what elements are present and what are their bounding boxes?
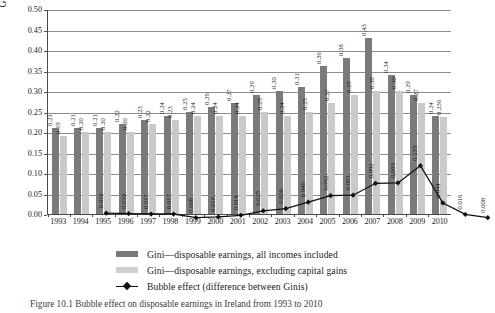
x-axis-year-label: 1997 <box>137 217 159 226</box>
legend-item-bubble-effect: Bubble effect (difference between Ginis) <box>0 278 459 294</box>
line-marker <box>261 208 266 213</box>
legend-label: Gini—disposable earnings, all incomes in… <box>147 249 338 260</box>
x-axis-year-label: 2002 <box>249 217 271 226</box>
bar-value-label-all-incomes: 0.21 <box>47 114 53 126</box>
legend-label: Bubble effect (difference between Ginis) <box>147 281 308 292</box>
y-tick-label: 0.20 <box>12 129 42 137</box>
line-marker <box>149 211 154 216</box>
x-axis-year-label: 1996 <box>114 217 136 226</box>
y-tick-label: 0.50 <box>12 6 42 14</box>
y-tick-label: 0.45 <box>12 27 42 35</box>
line-path <box>106 166 488 218</box>
x-axis-year-label: 1993 <box>47 217 69 226</box>
line-marker <box>463 212 468 217</box>
line-marker <box>126 211 131 216</box>
legend-item-all-incomes: Gini—disposable earnings, all incomes in… <box>0 246 459 262</box>
line-value-label: 0.025 <box>254 190 261 206</box>
dark-swatch-icon <box>116 251 138 257</box>
y-axis-title: Gini coefficients <box>0 0 8 44</box>
line-marker <box>306 200 311 205</box>
figure-caption: Figure 10.1 Bubble effect on disposable … <box>30 299 430 310</box>
x-axis-year-label: 2007 <box>361 217 383 226</box>
line-marker <box>283 206 288 211</box>
y-tick-label: 0.40 <box>12 47 42 55</box>
x-axis-year-label: 2003 <box>271 217 293 226</box>
line-value-label: 0.018 <box>120 193 127 209</box>
x-axis-year-label: 1999 <box>182 217 204 226</box>
x-axis-year-label: 2009 <box>406 217 428 226</box>
line-value-label: 0.008 <box>479 197 486 213</box>
line-value-label: 0.135 <box>411 145 418 161</box>
line-value-label: 0.044 <box>434 182 441 198</box>
bar-value-label-excluding-capital-gains: 0.19 <box>55 122 61 134</box>
x-axis-year-label: 2006 <box>339 217 361 226</box>
line-value-label: 0.019 <box>97 193 104 209</box>
line-value-label: 0.016 <box>456 194 463 210</box>
plot-axes: 0.210.190.210.200.210.200.220.200.230.22… <box>47 10 451 215</box>
y-tick-label: 0.35 <box>12 68 42 76</box>
y-tick-label: 0.10 <box>12 170 42 178</box>
line-value-label: 0.017 <box>165 193 172 209</box>
line-value-label: 0.063 <box>344 175 351 191</box>
line-value-label: 0.092 <box>367 163 374 178</box>
bar-excluding-capital-gains <box>60 136 67 214</box>
line-marker <box>485 215 490 220</box>
y-tick-label: 0.30 <box>12 88 42 96</box>
legend-item-excluding-capital-gains: Gini—disposable earnings, excluding capi… <box>0 262 459 278</box>
x-axis-year-label: 2004 <box>294 217 316 226</box>
x-axis-year-label: 2008 <box>384 217 406 226</box>
x-axis-year-label: 2005 <box>316 217 338 226</box>
light-swatch-icon <box>116 267 138 273</box>
line-value-label: 0.046 <box>299 182 306 198</box>
bubble-effect-line: 0.0190.0180.0170.0170.0080.0100.0140.025… <box>95 16 495 221</box>
x-axis-year-label: 2000 <box>204 217 226 226</box>
bar-all-incomes <box>74 128 81 214</box>
x-axis-year-label: 1994 <box>69 217 91 226</box>
line-value-label: 0.017 <box>142 193 149 209</box>
line-value-label: 0.010 <box>209 196 216 212</box>
x-axis-year-labels: 1993199419951996199719981999200020012002… <box>47 217 451 226</box>
y-tick-label: 0.05 <box>12 191 42 199</box>
line-marker <box>171 211 176 216</box>
legend-label: Gini—disposable earnings, excluding capi… <box>147 265 347 276</box>
line-value-label: 0.093 <box>389 162 396 178</box>
bar-group: 0.210.20 <box>70 10 92 214</box>
line-marker <box>351 193 356 198</box>
bar-excluding-capital-gains <box>82 132 89 214</box>
bar-group: 0.210.19 <box>48 10 70 214</box>
line-marker <box>104 211 109 216</box>
bar-value-label-excluding-capital-gains: 0.20 <box>78 118 84 130</box>
line-value-label: 0.014 <box>232 195 239 211</box>
x-axis-year-label: 2001 <box>227 217 249 226</box>
y-tick-label: 0.15 <box>12 150 42 158</box>
line-marker <box>373 181 378 186</box>
bar-all-incomes <box>52 128 59 214</box>
x-axis-year-label: 2010 <box>428 217 450 226</box>
line-marker <box>328 193 333 198</box>
y-tick-label: 0.00 <box>12 211 42 219</box>
y-tick-label: 0.25 <box>12 109 42 117</box>
line-diamond-icon <box>116 283 138 289</box>
line-value-label: 0.030 <box>277 188 284 204</box>
line-value-label: 0.062 <box>322 176 329 191</box>
x-axis-year-label: 1995 <box>92 217 114 226</box>
line-value-label: 0.008 <box>187 197 194 213</box>
chart-plot-area: Gini coefficients 0.000.050.100.150.200.… <box>0 4 459 236</box>
chart-legend: Gini—disposable earnings, all incomes in… <box>0 246 459 294</box>
x-axis-year-label: 1998 <box>159 217 181 226</box>
bar-value-label-all-incomes: 0.21 <box>70 114 76 126</box>
